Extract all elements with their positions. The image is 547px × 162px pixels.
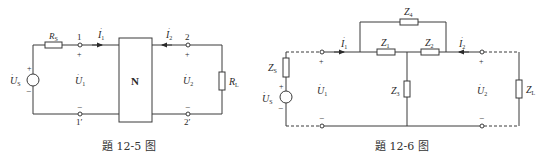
rs-label: RS [48,31,58,42]
source-minus: − [26,86,31,96]
source-minus: − [278,103,283,113]
terminal-port2-top-icon [480,50,484,54]
terminal-2-icon [186,43,190,47]
impedance-zs-icon [283,58,289,77]
load-side-dashed-wires [484,52,519,126]
impedance-z2-icon [421,49,439,55]
phasor-dot: · [185,71,187,79]
terminal-port2-bottom-icon [480,124,484,128]
u2-minus: − [185,102,190,112]
terminal-port1-bottom-icon [320,124,324,128]
terminal-port1-top-icon [320,50,324,54]
u1-minus: − [319,113,324,123]
phasor-dot: · [343,34,345,42]
source-plus: + [27,64,32,73]
impedance-zl-icon [516,80,522,98]
node-2p-label: 2′ [184,117,191,127]
network-label: N [131,75,139,87]
node-2-label: 2 [185,32,190,42]
z4-label: Z4 [404,6,413,18]
rl-label: RL [228,76,239,88]
z2-label: Z2 [425,37,434,49]
network-wires [324,22,480,126]
circuit-diagrams: + − US · RS 1 + − 1′ 2 + − 2′ U1 · U2 · … [0,0,547,162]
voltage-source-icon [27,74,39,86]
figure-caption: 題 12-5 图 [102,140,156,153]
terminal-1-icon [78,43,82,47]
figure-12-6: ZS + − US · + − + − U1 · U2 · I1 · I2 · … [262,6,536,153]
zl-label: ZL [526,84,536,96]
phasor-dot: · [100,25,102,33]
impedance-z3-icon [404,81,410,97]
phasor-dot: · [461,34,463,42]
u2-minus: − [479,113,484,123]
terminal-1p-icon [78,112,82,116]
u2-plus: + [479,57,484,66]
resistor-rs-icon [45,42,62,48]
phasor-dot: · [77,71,79,79]
phasor-dot: · [479,81,481,89]
figure-caption: 題 12-6 图 [375,140,429,153]
source-plus: + [279,82,284,91]
phasor-dot: · [263,89,265,97]
phasor-dot: · [319,81,321,89]
z3-label: Z3 [391,85,400,97]
u2-plus: + [185,50,190,59]
phasor-dot: · [11,71,13,79]
impedance-z1-icon [377,49,395,55]
source-side-dashed-wires [286,52,320,126]
resistor-rl-icon [219,72,225,90]
figure-12-5: + − US · RS 1 + − 1′ 2 + − 2′ U1 · U2 · … [10,25,239,153]
voltage-source-icon [280,91,292,103]
u1-plus: + [77,50,82,59]
impedance-z4-icon [400,19,418,25]
phasor-dot: · [168,25,170,33]
node-1-label: 1 [77,32,82,42]
z1-label: Z1 [381,37,390,49]
u1-minus: − [77,102,82,112]
terminal-2p-icon [186,112,190,116]
node-1p-label: 1′ [76,117,83,127]
u1-plus: + [319,57,324,66]
zs-label: ZS [268,62,277,74]
